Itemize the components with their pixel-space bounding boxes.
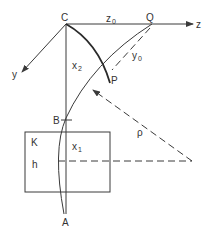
- arc-c-to-p: [66, 24, 110, 83]
- label-z0: z: [106, 13, 111, 24]
- arc-q-to-a: [58, 24, 152, 214]
- label-x2: x: [72, 60, 77, 71]
- block-k-rect: [25, 132, 110, 192]
- y-axis: [22, 24, 66, 72]
- label-y-axis: y: [12, 69, 17, 80]
- label-B: B: [53, 115, 60, 126]
- label-z0-sub: 0: [112, 18, 116, 25]
- label-K: K: [31, 137, 38, 148]
- geometry-diagram: C Q z y z 0 y 0 x 2 P B ρ K h x 1 A: [0, 0, 207, 236]
- label-y0-sub: 0: [138, 55, 142, 62]
- label-P: P: [111, 75, 118, 86]
- label-x2-sub: 2: [78, 65, 82, 72]
- label-rho: ρ: [137, 127, 143, 138]
- radius-rho-line: [93, 90, 192, 161]
- label-y0: y: [132, 50, 137, 61]
- label-h: h: [32, 159, 38, 170]
- label-Q: Q: [146, 12, 154, 23]
- label-z-axis: z: [196, 19, 201, 30]
- label-x1: x: [72, 141, 77, 152]
- label-A: A: [62, 217, 69, 228]
- label-C: C: [61, 12, 68, 23]
- label-x1-sub: 1: [78, 146, 82, 153]
